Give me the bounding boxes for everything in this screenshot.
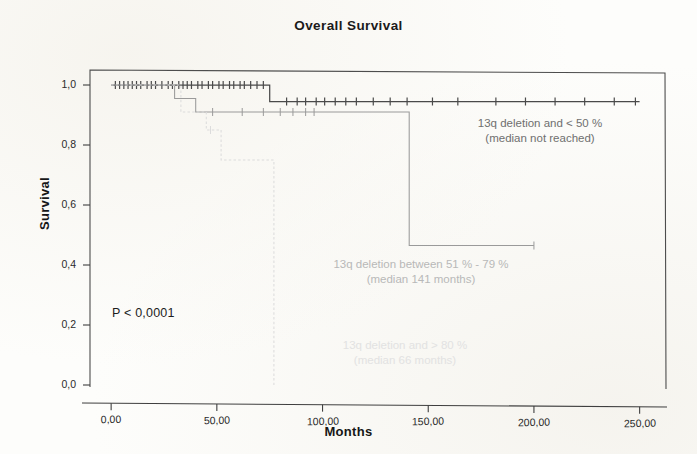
y-tick-label-1-0: 1,0 [42,78,76,90]
survival-curve-3 [111,85,274,385]
survival-chart: Overall Survival 1,0 0,8 0,6 0,4 0,2 0,0… [0,0,697,454]
series-annotation-51-79-line1: 13q deletion between 51 % - 79 % [276,257,566,272]
series-annotation-51-79: 13q deletion between 51 % - 79 % (median… [276,257,566,287]
pvalue-label: P < 0,0001 [112,306,175,320]
curve-path [111,85,274,385]
series-annotation-below-50-line2: (median not reached) [425,131,655,146]
y-axis-title: Survival [37,144,52,264]
x-axis-title: Months [0,424,697,439]
series-annotation-51-79-line2: (median 141 months) [276,272,566,287]
x-axis-line [82,403,667,407]
curve-path [111,85,534,246]
series-annotation-below-50: 13q deletion and < 50 % (median not reac… [425,116,655,146]
series-annotation-below-50-line1: 13q deletion and < 50 % [425,116,655,131]
survival-curve-1 [111,81,640,106]
y-tick-label-0-2: 0,2 [42,318,76,330]
series-annotation-above-80-line2: (median 66 months) [290,353,520,368]
y-tick-label-0-0: 0,0 [42,378,76,390]
plot-canvas [0,0,697,454]
survival-curve-2 [111,85,534,250]
series-annotation-above-80-line1: 13q deletion and > 80 % [290,338,520,353]
series-annotation-above-80: 13q deletion and > 80 % (median 66 month… [290,338,520,368]
